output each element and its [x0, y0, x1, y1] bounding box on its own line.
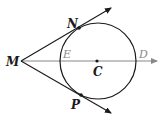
label-D: D — [138, 48, 148, 61]
tangent-diagram: M N P E C D — [0, 0, 166, 121]
label-P: P — [70, 98, 81, 112]
label-N: N — [66, 17, 79, 31]
label-M: M — [5, 55, 20, 69]
point-P — [79, 93, 83, 97]
label-E: E — [62, 48, 71, 61]
point-C — [95, 59, 98, 62]
label-C: C — [93, 65, 103, 79]
